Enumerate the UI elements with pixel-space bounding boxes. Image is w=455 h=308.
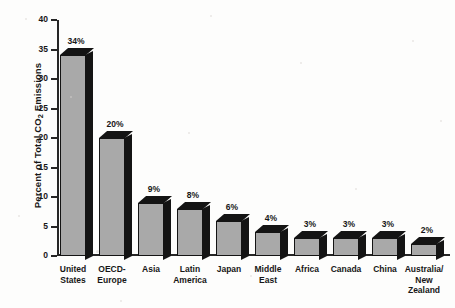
scan-speck	[70, 96, 72, 98]
x-axis-category-label-line: America	[163, 275, 217, 286]
y-axis-tick-label: 10	[39, 191, 48, 201]
y-axis-tick-mark	[51, 49, 57, 51]
bar-face	[411, 244, 437, 256]
y-axis-tick-label: 40	[39, 14, 48, 24]
bar-value-label: 3%	[329, 219, 369, 229]
y-axis-tick-label: 20	[39, 132, 48, 142]
y-axis-tick-mark	[51, 196, 57, 198]
scan-speck	[120, 300, 122, 302]
scan-speck	[188, 132, 190, 134]
x-axis-category-label-line: Zealand	[397, 285, 451, 296]
bar-side-shadow	[280, 229, 288, 260]
bar-value-label: 3%	[368, 219, 408, 229]
bar-value-label: 6%	[212, 202, 252, 212]
bar-side-shadow	[202, 205, 210, 260]
x-axis-category-label-line: Australia/	[397, 264, 451, 275]
scan-speck	[412, 40, 414, 42]
bar-side-shadow	[241, 217, 249, 260]
scan-speck	[96, 250, 99, 253]
bar-value-label: 4%	[251, 213, 291, 223]
y-axis-tick-mark	[51, 255, 57, 257]
scan-speck	[25, 18, 27, 20]
bar-value-label: 8%	[173, 190, 213, 200]
bar-item: 6%	[216, 209, 250, 256]
bar-side-shadow	[397, 234, 405, 260]
y-axis-tick-mark	[51, 137, 57, 139]
bar-face	[177, 209, 203, 256]
bar-value-label: 2%	[407, 225, 447, 235]
scan-speck	[355, 188, 357, 190]
y-axis-tick-label: 25	[39, 103, 48, 113]
y-axis-tick-label: 0	[43, 250, 48, 260]
y-axis-tick-mark	[51, 226, 57, 228]
y-axis-tick-label: 15	[39, 162, 48, 172]
bar-face	[333, 238, 359, 256]
bar-face	[60, 55, 86, 256]
plot-area: 4035302520151050 34%20%9%8%6%4%3%3%3%2%	[57, 20, 450, 256]
bar-item: 3%	[372, 226, 406, 256]
co2-emissions-bar-chart: Percent of Total CO2 Emissions 403530252…	[0, 0, 455, 308]
y-axis-tick-label: 35	[39, 44, 48, 54]
bar-item: 8%	[177, 197, 211, 256]
bar-item: 4%	[255, 220, 289, 256]
bar-side-shadow	[358, 234, 366, 260]
bar-value-label: 20%	[95, 119, 135, 129]
bar-face	[216, 221, 242, 256]
x-axis-category-label-line: New	[397, 275, 451, 286]
bar-face	[99, 138, 125, 256]
scan-speck	[250, 275, 252, 277]
scan-speck	[18, 215, 20, 217]
bar-face	[138, 203, 164, 256]
scan-speck	[210, 15, 212, 17]
y-axis-tick-mark	[51, 19, 57, 21]
y-axis-title-subscript: 2	[36, 114, 45, 118]
bar-item: 9%	[138, 191, 172, 256]
scan-speck	[440, 120, 442, 122]
y-axis-tick-label: 5	[43, 221, 48, 231]
bar-side-shadow	[319, 234, 327, 260]
bar-value-label: 9%	[134, 184, 174, 194]
scan-speck	[300, 62, 302, 64]
bar-item: 20%	[99, 126, 133, 256]
y-axis-tick-mark	[51, 78, 57, 80]
bar-side-shadow	[163, 199, 171, 260]
y-axis-line	[57, 20, 59, 256]
y-axis-tick-label: 30	[39, 73, 48, 83]
y-axis-tick-mark	[51, 167, 57, 169]
bar-side-shadow	[124, 134, 132, 260]
bar-face	[372, 238, 398, 256]
x-axis-category-label: Australia/NewZealand	[397, 264, 451, 296]
x-axis-category-label-line: Europe	[85, 275, 139, 286]
bar-item: 2%	[411, 232, 445, 256]
bar-item: 3%	[333, 226, 367, 256]
bar-item: 34%	[60, 43, 94, 256]
bar-value-label: 3%	[290, 219, 330, 229]
bar-value-label: 34%	[56, 36, 96, 46]
bar-face	[294, 238, 320, 256]
bar-item: 3%	[294, 226, 328, 256]
bar-face	[255, 232, 281, 256]
bar-side-shadow	[85, 52, 93, 260]
y-axis-tick-mark	[51, 108, 57, 110]
